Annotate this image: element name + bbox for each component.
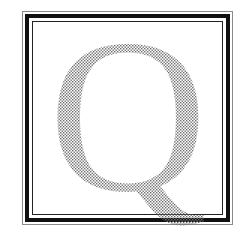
letter-q-glyph: Q bbox=[49, 0, 208, 237]
letter-q-illustration: Q bbox=[0, 0, 242, 237]
